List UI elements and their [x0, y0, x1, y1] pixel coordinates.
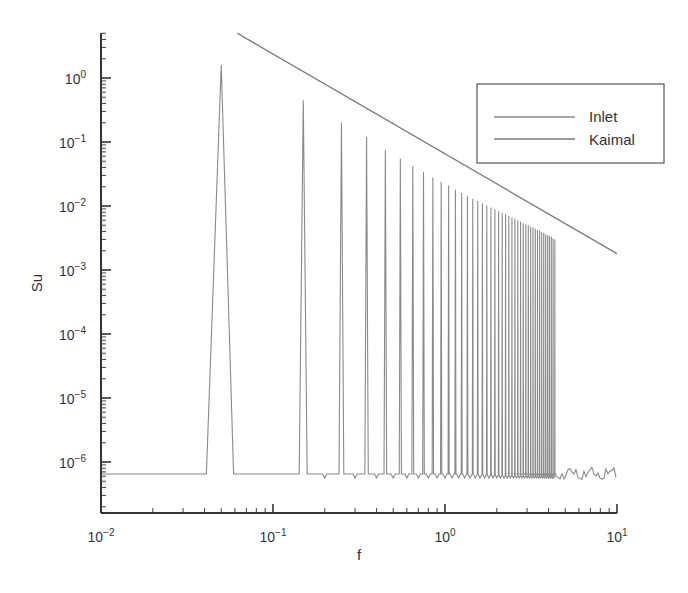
x-tick-label: 100	[434, 527, 456, 545]
y-tick-label: 10−2	[59, 197, 86, 215]
legend-box	[477, 84, 664, 163]
y-tick-label: 100	[65, 69, 87, 87]
x-axis-title: f	[357, 546, 362, 563]
x-tick-label: 10−1	[260, 527, 287, 545]
y-tick-label: 10−4	[59, 325, 86, 343]
y-tick-label: 10−3	[59, 261, 86, 279]
x-tick-label: 101	[606, 527, 628, 545]
y-tick-label: 10−1	[59, 133, 86, 151]
y-tick-label: 10−5	[59, 389, 86, 407]
spectrum-chart: 10−210−110010110010−110−210−310−410−510−…	[0, 0, 688, 593]
legend-label-kaimal: Kaimal	[589, 131, 635, 148]
legend-label-inlet: Inlet	[589, 108, 618, 125]
legend: Inlet Kaimal	[477, 84, 664, 163]
x-tick-label: 10−2	[88, 527, 115, 545]
y-tick-label: 10−6	[59, 453, 86, 471]
y-axis-title: Su	[28, 274, 45, 292]
